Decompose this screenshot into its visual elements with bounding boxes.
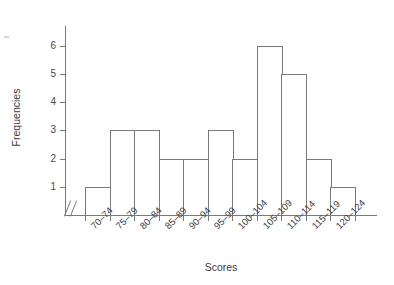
y-axis-tick [60,159,66,160]
histogram-bar [110,130,136,216]
y-axis-tick-label-wrap: 4 [30,97,56,107]
y-axis-tick-label: 6 [34,41,56,51]
y-axis-tick-label-wrap: 6 [30,41,56,51]
y-axis-tick-label-wrap: 1 [30,182,56,192]
histogram-bar [257,46,283,216]
histogram-bar [134,130,160,216]
y-axis-tick [60,74,66,75]
axis-break-icon [62,200,84,220]
y-axis-tick [60,130,66,131]
y-axis-tick-label-wrap: 3 [30,125,56,135]
histogram-bar [208,130,234,216]
y-axis-tick-label: 5 [34,69,56,79]
y-axis-tick-label-wrap: 2 [30,154,56,164]
y-axis-tick-label-wrap: 5 [30,69,56,79]
y-axis-tick-label: 3 [34,125,56,135]
y-axis-tick-label: 2 [34,154,56,164]
x-axis-title: Scores [65,262,377,273]
histogram-bar [281,74,307,216]
y-axis-tick [60,46,66,47]
plot-area: 123456 70–7475–7980–8485–8990–9495–99100… [0,0,394,285]
histogram-figure: 123456 70–7475–7980–8485–8990–9495–99100… [0,0,394,285]
y-axis-tick [60,102,66,103]
y-axis-tick-label: 1 [34,182,56,192]
y-axis-tick [60,187,66,188]
y-axis-tick-label: 4 [34,97,56,107]
y-axis-title: Frequencies [11,68,22,168]
